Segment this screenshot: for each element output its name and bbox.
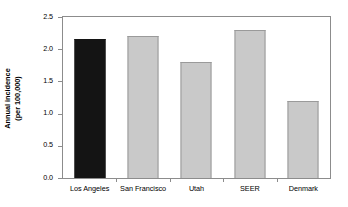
bar-slot (223, 17, 276, 178)
bar-seer[interactable] (234, 30, 265, 178)
bar-slot (170, 17, 223, 178)
x-axis-labels: Los AngelesSan FranciscoUtahSEERDenmark (63, 184, 330, 198)
y-axis-title-line-2: (per 100,000) (13, 68, 23, 128)
bar-denmark[interactable] (288, 101, 319, 178)
bar-slot (63, 17, 116, 178)
y-axis-title: Annual incidence (per 100,000) (0, 0, 48, 207)
x-axis-label-utah: Utah (189, 184, 204, 193)
x-axis-tick-mark (116, 178, 117, 182)
bars-layer (63, 17, 330, 178)
x-axis-tick-mark (277, 178, 278, 182)
x-axis-label-los-angeles: Los Angeles (70, 184, 109, 193)
bar-chart-figure: Annual incidence (per 100,000) 0.00.51.0… (0, 0, 348, 207)
x-axis-label-san-francisco: San Francisco (120, 184, 166, 193)
y-axis-tick-label: 0.0 (43, 173, 53, 182)
bar-los-angeles[interactable] (74, 39, 105, 178)
x-axis-tick-mark (170, 178, 171, 182)
y-axis-tick-label: 1.0 (43, 108, 53, 117)
y-axis-tick-label: 1.5 (43, 76, 53, 85)
y-axis-tick-label: 2.5 (43, 12, 53, 21)
y-axis-tick-label: 2.0 (43, 44, 53, 53)
bar-utah[interactable] (181, 62, 212, 178)
bar-slot (116, 17, 169, 178)
y-axis-title-line-1: Annual incidence (3, 68, 13, 128)
bar-slot (277, 17, 330, 178)
x-axis-tick-mark (223, 178, 224, 182)
x-axis-label-seer: SEER (240, 184, 260, 193)
y-axis-tick-label: 0.5 (43, 140, 53, 149)
bar-san-francisco[interactable] (128, 36, 159, 178)
x-axis-label-denmark: Denmark (289, 184, 318, 193)
